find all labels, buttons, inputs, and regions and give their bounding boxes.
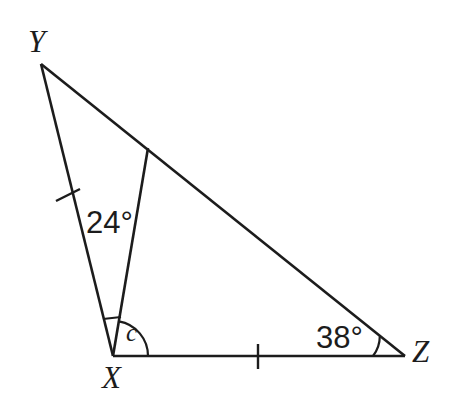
vertex-label-Z: Z	[412, 336, 429, 367]
tick-mark-on-YX	[56, 189, 80, 201]
angle-arc-38-degrees	[373, 336, 380, 356]
geometry-figure: Y X Z 24° 38° c	[0, 0, 450, 416]
diagram-canvas	[0, 0, 450, 416]
angle-label-c: c	[126, 320, 137, 345]
angle-label-24-degrees: 24°	[86, 207, 133, 238]
angle-label-38-degrees: 38°	[316, 322, 363, 353]
vertex-label-X: X	[102, 362, 121, 393]
vertex-label-Y: Y	[28, 26, 45, 57]
